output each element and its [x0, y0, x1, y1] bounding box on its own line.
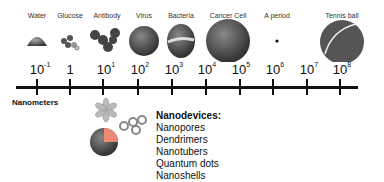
axis-tick: [171, 79, 173, 95]
axis-tick: [102, 79, 104, 95]
cancer-cell-icon: [206, 19, 250, 62]
nanodevice-item: Quantum dots: [156, 158, 219, 169]
nanoshell-rings-icon: [120, 116, 146, 134]
period-dot-icon: [275, 39, 278, 42]
axis-tick: [239, 79, 241, 95]
size-objects-illustration: [0, 18, 384, 62]
tick-label: 1: [66, 62, 73, 77]
tick-label: 101: [97, 62, 115, 77]
nanodevice-item: Nanopores: [156, 122, 205, 133]
nanodevices-title: Nanodevices:: [156, 110, 221, 121]
antibody-icon: [90, 28, 120, 52]
tick-label: 10-1: [30, 62, 51, 77]
tick-label: 107: [300, 62, 318, 77]
nanoflower-icon: [94, 98, 118, 122]
tick-label: 102: [131, 62, 149, 77]
nanodevice-item: Nanotubers: [156, 146, 208, 157]
virus-icon: [129, 26, 159, 56]
axis-tick: [137, 79, 139, 95]
glucose-molecule-icon: [61, 35, 79, 50]
nanodevice-item: Dendrimers: [156, 134, 208, 145]
tick-label: 105: [232, 62, 250, 77]
tick-label: 108: [333, 62, 351, 77]
axis-tick: [69, 79, 71, 95]
water-droplet-icon: [27, 37, 47, 46]
unit-label: Nanometers: [12, 98, 58, 107]
tennis-ball-icon: [320, 20, 364, 62]
axis-tick: [36, 79, 38, 95]
axis-tick: [272, 79, 274, 95]
bacteria-icon: [167, 24, 195, 58]
quantum-dot-sphere-icon: [90, 128, 118, 156]
axis-tick: [339, 79, 341, 95]
tick-label: 104: [198, 62, 216, 77]
tick-label: 103: [165, 62, 183, 77]
axis-tick: [205, 79, 207, 95]
tick-label: 106: [266, 62, 284, 77]
nanodevices-illustration: [84, 96, 154, 176]
nanodevice-item: Nanoshells: [156, 170, 205, 181]
axis-tick: [306, 79, 308, 95]
